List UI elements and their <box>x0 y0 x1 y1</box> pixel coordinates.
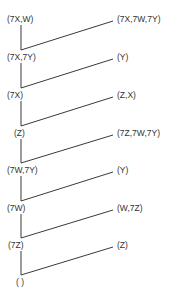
branch-line-4 <box>21 135 113 163</box>
branch-line-3 <box>21 97 113 126</box>
branch-line-5 <box>21 172 113 201</box>
left-node-7: (7Z) <box>8 240 24 250</box>
left-node-8-empty-clause: ( ) <box>16 277 24 287</box>
right-node-4: (7Z,7W,7Y) <box>117 128 160 138</box>
left-node-6: (7W) <box>7 203 25 213</box>
right-node-7: (Z) <box>117 240 128 250</box>
right-node-3: (Z,X) <box>117 90 136 100</box>
right-node-5: (Y) <box>117 165 128 175</box>
branch-line-2 <box>21 59 113 88</box>
right-node-2: (Y) <box>117 52 128 62</box>
left-node-4: (Z) <box>14 128 25 138</box>
left-node-1: (7X,W) <box>7 14 33 24</box>
left-node-3: (7X) <box>7 90 23 100</box>
resolution-diagram: (7X,W) (7X,7Y) (7X) (Z) (7W,7Y) (7W) (7Z… <box>0 0 170 300</box>
connector-lines <box>0 0 170 300</box>
branch-line-1 <box>21 21 113 50</box>
branch-line-7 <box>21 247 113 275</box>
branch-line-6 <box>21 210 113 238</box>
right-node-6: (W,7Z) <box>117 203 143 213</box>
left-node-5: (7W,7Y) <box>7 165 38 175</box>
right-node-1: (7X,7W,7Y) <box>117 14 160 24</box>
left-node-2: (7X,7Y) <box>7 52 36 62</box>
